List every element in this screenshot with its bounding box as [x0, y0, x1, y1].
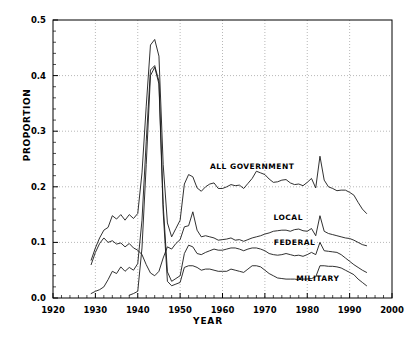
svg-text:1990: 1990	[338, 305, 362, 315]
svg-text:1960: 1960	[211, 305, 235, 315]
svg-text:1980: 1980	[295, 305, 319, 315]
svg-text:2000: 2000	[380, 305, 404, 315]
series-annotations-layer: ALL GOVERNMENTLOCALFEDERALMILITARY	[210, 162, 339, 283]
svg-text:0.0: 0.0	[31, 293, 46, 303]
svg-text:1970: 1970	[253, 305, 277, 315]
svg-text:0.5: 0.5	[31, 15, 46, 25]
y-axis-title: PROPORTION	[22, 75, 32, 175]
svg-text:1940: 1940	[126, 305, 150, 315]
series-label-all-government: ALL GOVERNMENT	[210, 162, 295, 171]
svg-text:0.1: 0.1	[31, 237, 46, 247]
svg-text:1930: 1930	[84, 305, 108, 315]
series-label-military: MILITARY	[296, 274, 339, 283]
svg-text:0.2: 0.2	[31, 182, 46, 192]
series-line-military	[129, 67, 366, 295]
svg-text:0.3: 0.3	[31, 126, 46, 136]
line-chart-svg: 1920193019401950196019701980199020000.00…	[0, 0, 416, 337]
grid-layer	[53, 20, 392, 298]
series-line-all-government	[91, 39, 366, 260]
svg-text:0.4: 0.4	[31, 71, 46, 81]
svg-text:1950: 1950	[168, 305, 192, 315]
series-label-local: LOCAL	[273, 213, 302, 222]
chart-container: 1920193019401950196019701980199020000.00…	[0, 0, 416, 337]
svg-text:1920: 1920	[41, 305, 65, 315]
series-label-federal: FEDERAL	[274, 238, 315, 247]
series-line-federal	[91, 66, 366, 294]
x-axis-title: YEAR	[0, 316, 416, 326]
